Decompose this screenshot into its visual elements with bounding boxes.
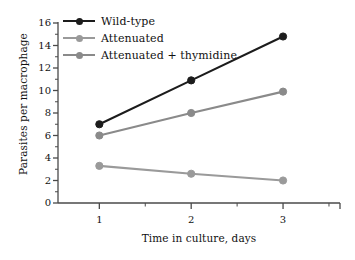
legend-item-0: Wild-type bbox=[63, 14, 237, 28]
legend-swatch-icon bbox=[63, 49, 95, 61]
chart-legend: Wild-typeAttenuatedAttenuated + thymidin… bbox=[63, 14, 237, 62]
legend-marker-dot-icon bbox=[76, 52, 83, 59]
legend-marker-dot-icon bbox=[76, 18, 83, 25]
figure: 0246810121416 123 Parasites per macropha… bbox=[0, 0, 355, 260]
legend-label: Attenuated + thymidine bbox=[101, 49, 237, 62]
legend-label: Attenuated bbox=[101, 32, 164, 45]
x-axis-label: Time in culture, days bbox=[58, 232, 340, 244]
legend-swatch-icon bbox=[63, 32, 95, 44]
x-tick-label: 1 bbox=[87, 215, 111, 225]
y-axis-label: Parasites per macrophage bbox=[17, 14, 29, 194]
legend-item-1: Attenuated bbox=[63, 31, 237, 45]
legend-marker-dot-icon bbox=[76, 35, 83, 42]
legend-swatch-icon bbox=[63, 15, 95, 27]
legend-item-2: Attenuated + thymidine bbox=[63, 48, 237, 62]
x-tick-label: 2 bbox=[179, 215, 203, 225]
x-tick-label: 3 bbox=[271, 215, 295, 225]
legend-label: Wild-type bbox=[101, 15, 155, 28]
